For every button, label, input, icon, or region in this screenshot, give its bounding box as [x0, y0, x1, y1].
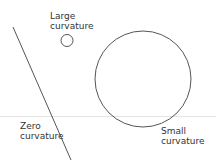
label-line: Zero — [20, 121, 63, 131]
small-circle — [61, 35, 73, 47]
label-line: curvature — [20, 131, 63, 141]
label-line: Small — [161, 126, 204, 136]
label-large-curvature: Large curvature — [50, 11, 93, 31]
label-line: curvature — [50, 21, 93, 31]
label-zero-curvature: Zero curvature — [20, 121, 63, 141]
large-circle — [95, 31, 191, 127]
label-line: curvature — [161, 136, 204, 146]
label-small-curvature: Small curvature — [161, 126, 204, 146]
curvature-diagram: Large curvature Zero curvature Small cur… — [0, 0, 216, 168]
label-line: Large — [50, 11, 93, 21]
